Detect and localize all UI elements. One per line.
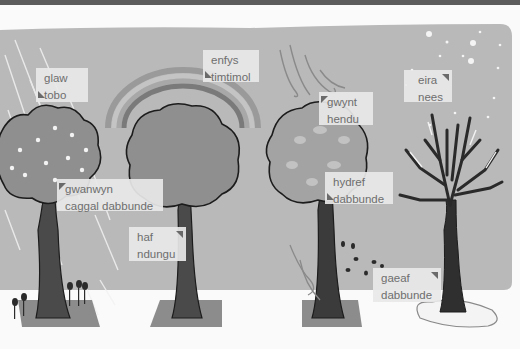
label-wind-other: hendu	[327, 111, 367, 128]
label-snow-other: nees	[412, 89, 446, 106]
corner-marker-icon	[205, 71, 212, 78]
corner-marker-icon	[321, 96, 328, 103]
label-wind-welsh: gwynt	[327, 94, 367, 111]
label-wind: gwynt hendu	[319, 92, 373, 125]
label-rainbow: enfys timtimol	[203, 50, 259, 82]
corner-marker-icon	[431, 272, 438, 279]
label-snow: eira nees	[404, 70, 452, 102]
corner-marker-icon	[176, 231, 183, 238]
label-winter-other: dabbunde	[381, 287, 435, 304]
label-autumn-welsh: hydref	[333, 174, 387, 191]
label-spring: gwanwyn caggal dabbunde	[57, 179, 163, 211]
label-rain: glaw tobo	[36, 68, 88, 102]
label-rain-other: tobo	[44, 87, 82, 104]
label-autumn: hydref dabbunde	[325, 172, 393, 204]
corner-marker-icon	[38, 91, 45, 98]
corner-marker-icon	[327, 193, 334, 200]
corner-marker-icon	[59, 183, 66, 190]
label-spring-other: caggal dabbunde	[65, 198, 157, 215]
label-rain-welsh: glaw	[44, 70, 82, 87]
label-summer: haf ndungu	[129, 227, 186, 261]
label-rainbow-welsh: enfys	[211, 52, 253, 69]
label-summer-welsh: haf	[137, 229, 180, 246]
label-spring-welsh: gwanwyn	[65, 181, 157, 198]
label-winter-welsh: gaeaf	[381, 270, 435, 287]
label-rainbow-other: timtimol	[211, 69, 253, 86]
label-autumn-other: dabbunde	[333, 191, 387, 208]
label-summer-other: ndungu	[137, 246, 180, 263]
corner-marker-icon	[442, 74, 449, 81]
label-winter: gaeaf dabbunde	[373, 268, 441, 302]
seasons-illustration	[0, 0, 520, 349]
label-snow-welsh: eira	[412, 72, 446, 89]
